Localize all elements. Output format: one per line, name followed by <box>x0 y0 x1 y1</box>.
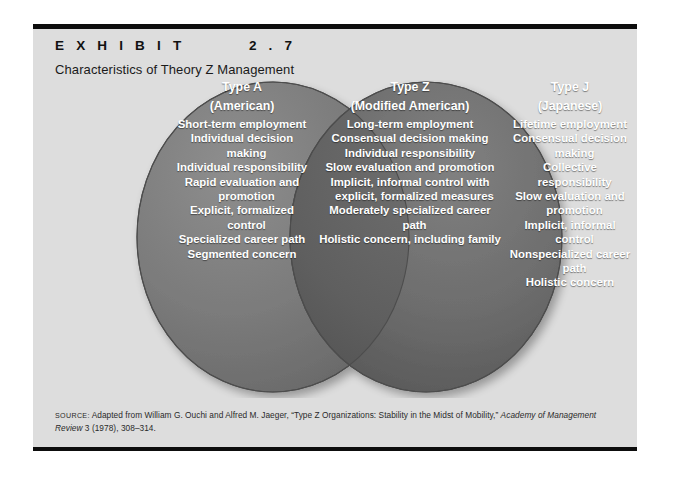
exhibit-number: E X H I B I T 2 . 7 <box>55 38 615 53</box>
venn-label-type-j: Type J (Japanese) Lifetime employment Co… <box>507 80 633 290</box>
list-item: Slow evaluation and promotion <box>507 189 633 218</box>
type-z-subheading: (Modified American) <box>318 99 502 114</box>
top-rule <box>33 24 637 29</box>
list-item: Short-term employment <box>171 117 313 131</box>
type-a-subheading: (American) <box>171 99 313 114</box>
type-z-list: Long-term employment Consensual decision… <box>318 117 502 247</box>
source-text-after: 3 (1978), 308–314. <box>83 423 156 433</box>
source-text-before: Adapted from William G. Ouchi and Alfred… <box>90 410 501 420</box>
list-item: Individual decision making <box>171 131 313 160</box>
type-a-list: Short-term employment Individual decisio… <box>171 117 313 261</box>
list-item: Individual responsibility <box>318 146 502 160</box>
list-item: Moderately specialized career path <box>318 203 502 232</box>
list-item: Nonspecialized career path <box>507 247 633 276</box>
list-item: Lifetime employment <box>507 117 633 131</box>
list-item: Holistic concern <box>507 275 633 289</box>
type-z-heading: Type Z <box>318 80 502 95</box>
exhibit-header: E X H I B I T 2 . 7 Characteristics of T… <box>55 38 615 77</box>
venn-diagram: Type A (American) Short-term employment … <box>33 80 637 398</box>
list-item: Specialized career path <box>171 232 313 246</box>
list-item: Consensual decision making <box>318 131 502 145</box>
list-item: Segmented concern <box>171 247 313 261</box>
type-a-heading: Type A <box>171 80 313 95</box>
list-item: Consensual decision making <box>507 131 633 160</box>
type-j-subheading: (Japanese) <box>507 99 633 114</box>
list-item: Rapid evaluation and promotion <box>171 175 313 204</box>
list-item: Holistic concern, including family <box>318 232 502 246</box>
source-note: SOURCE: Adapted from William G. Ouchi an… <box>55 409 621 434</box>
list-item: Explicit, formalized control <box>171 203 313 232</box>
list-item: Collective responsibility <box>507 160 633 189</box>
type-j-list: Lifetime employment Consensual decision … <box>507 117 633 290</box>
exhibit-panel: E X H I B I T 2 . 7 Characteristics of T… <box>33 24 637 451</box>
venn-label-type-z: Type Z (Modified American) Long-term emp… <box>318 80 502 247</box>
list-item: Slow evaluation and promotion <box>318 160 502 174</box>
venn-label-type-a: Type A (American) Short-term employment … <box>171 80 313 261</box>
bottom-rule <box>33 447 637 451</box>
list-item: Individual responsibility <box>171 160 313 174</box>
list-item: Implicit, informal control with explicit… <box>318 175 502 204</box>
list-item: Long-term employment <box>318 117 502 131</box>
list-item: Implicit, informal control <box>507 218 633 247</box>
exhibit-title: Characteristics of Theory Z Management <box>55 62 615 77</box>
type-j-heading: Type J <box>507 80 633 95</box>
source-label: SOURCE: <box>55 412 90 420</box>
